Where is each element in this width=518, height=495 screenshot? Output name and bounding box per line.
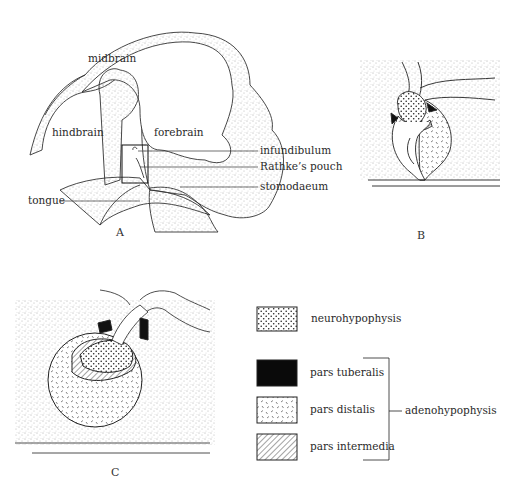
panel-b-label: B [417,229,425,242]
legend [257,307,402,460]
legend-label-pars-distalis: pars distalis [310,403,375,415]
legend-label-pars-tuberalis: pars tuberalis [310,366,384,378]
label-rathkes-pouch: Rathke’s pouch [260,160,342,172]
panel-a-label: A [116,226,124,239]
label-infundibulum: infundibulum [260,144,331,156]
panel-b-drawing [360,60,500,186]
legend-label-neurohypophysis: neurohypophysis [311,312,401,324]
label-hindbrain: hindbrain [52,126,104,138]
panel-c-drawing [15,290,215,453]
legend-swatch-pars-distalis [257,397,297,423]
label-stomodaeum: stomodaeum [260,180,328,192]
legend-swatch-neurohypophysis [257,307,297,331]
panel-c-label: C [111,466,119,479]
legend-swatch-pars-intermedia [257,434,297,460]
legend-group-adenohypophysis: adenohypophysis [405,404,497,416]
legend-label-pars-intermedia: pars intermedia [310,440,395,452]
pituitary-development-diagram [0,0,518,495]
label-tongue: tongue [28,194,65,206]
label-midbrain: midbrain [88,52,136,64]
label-forebrain: forebrain [154,126,204,138]
legend-swatch-pars-tuberalis [257,360,297,386]
